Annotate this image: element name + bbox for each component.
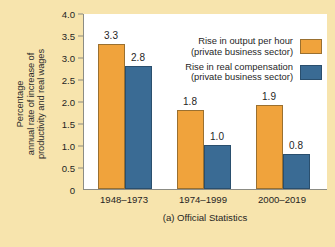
x-axis-tick-label: 2000–2019	[258, 194, 306, 205]
bar: 0.8	[283, 154, 310, 189]
y-axis-tick-label: 4.0	[62, 9, 75, 20]
y-axis-tick-label: 2.5	[62, 75, 75, 86]
x-axis-tick-label: 1974–1999	[179, 194, 227, 205]
legend-item-output-per-hour-label: Rise in output per hour (private busines…	[191, 36, 293, 58]
bar-value-label: 2.8	[131, 52, 145, 63]
x-axis-tick-labels: 1948–19731974–19992000–2019	[83, 194, 327, 208]
legend-label-line-2: (private business sector)	[185, 72, 293, 83]
bar-value-label: 1.0	[210, 131, 224, 142]
y-axis-tick-label: 3.0	[62, 53, 75, 64]
bar-value-label: 3.3	[104, 30, 118, 41]
bar: 3.3	[98, 44, 125, 189]
y-axis-tick-label: 1.0	[62, 141, 75, 152]
legend-label-line-2: (private business sector)	[191, 47, 293, 58]
legend: Rise in output per hour (private busines…	[156, 36, 322, 87]
bar-group: 3.32.8	[98, 14, 153, 189]
y-axis-tick-label: 0.5	[62, 163, 75, 174]
y-axis-title: Percentage annual rate of increase of pr…	[11, 9, 51, 199]
bar-value-label: 1.9	[262, 91, 276, 102]
bar-chart-figure: Percentage annual rate of increase of pr…	[0, 0, 335, 247]
legend-swatch-output-per-hour	[300, 39, 322, 54]
bar: 1.0	[204, 145, 231, 189]
y-axis-title-line-1: Percentage	[15, 81, 26, 128]
y-axis: 00.51.01.52.02.53.03.54.0	[52, 14, 83, 190]
legend-item-real-compensation: Rise in real compensation (private busin…	[156, 62, 322, 84]
legend-item-output-per-hour: Rise in output per hour (private busines…	[156, 36, 322, 58]
bar: 1.8	[177, 110, 204, 189]
y-axis-title-line-2: annual rate of increase of	[26, 53, 37, 155]
x-axis-tick-label: 1948–1973	[100, 194, 148, 205]
y-axis-title-line-3: productivity and real wages	[36, 49, 47, 159]
bar-value-label: 0.8	[289, 140, 303, 151]
bar-value-label: 1.8	[183, 96, 197, 107]
legend-swatch-real-compensation	[300, 65, 322, 80]
bar: 2.8	[125, 66, 152, 189]
bar: 1.9	[256, 105, 283, 189]
y-axis-tick-label: 2.0	[62, 97, 75, 108]
y-axis-tick-label: 3.5	[62, 31, 75, 42]
y-axis-tick-label: 1.5	[62, 119, 75, 130]
legend-item-real-compensation-label: Rise in real compensation (private busin…	[185, 62, 293, 84]
figure-caption: (a) Official Statistics	[83, 212, 327, 223]
y-axis-tick-label: 0	[70, 185, 75, 196]
